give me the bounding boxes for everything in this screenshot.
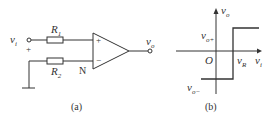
caption-a: (a): [71, 101, 82, 112]
opamp-plus-label: +: [96, 36, 101, 45]
r1-label: R1: [51, 24, 61, 38]
y-axis-label: vo: [221, 5, 229, 19]
resistor-r2: [47, 58, 63, 64]
opamp-minus-label: −: [96, 56, 101, 65]
node-n-label: N: [79, 66, 86, 76]
x-axis-label: vi: [255, 55, 262, 69]
input-voltage-label: vi: [10, 34, 17, 48]
caption-b: (b): [205, 101, 217, 112]
r2-label: R2: [51, 66, 61, 80]
input-terminal: [27, 38, 31, 42]
threshold-label: vR: [237, 55, 246, 69]
output-voltage-label: vo: [146, 36, 154, 50]
circuit-and-transfer-diagram: [0, 0, 271, 119]
origin-label: O: [205, 55, 213, 66]
input-plus-sign: +: [26, 45, 31, 54]
vol-label: vo−: [187, 82, 200, 96]
voh-label: vo+: [201, 30, 214, 44]
